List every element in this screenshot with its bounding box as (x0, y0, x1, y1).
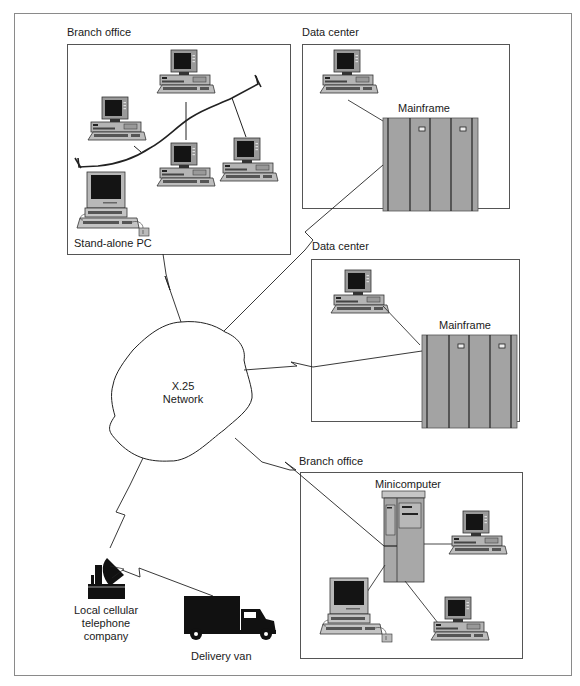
cellular-label-line1: Local cellular (65, 604, 147, 617)
branch-office-bottom-label: Branch office (299, 455, 363, 468)
x25-network-label-line1: X.25 (158, 380, 208, 393)
branch-office-top (68, 45, 291, 255)
mainframe-2-label: Mainframe (439, 319, 491, 332)
data-center-2-label: Data center (312, 240, 369, 253)
x25-network-label-line2: Network (150, 393, 216, 406)
data-center-1 (303, 45, 510, 212)
data-center-1-label: Data center (302, 26, 359, 39)
stand-alone-pc-label: Stand-alone PC (74, 237, 152, 250)
delivery-van-label: Delivery van (191, 650, 252, 663)
minicomputer-label: Minicomputer (375, 478, 441, 491)
branch-office-top-label: Branch office (67, 26, 131, 39)
mainframe-1-label: Mainframe (398, 102, 450, 115)
minicomputer-icon (382, 491, 425, 582)
branch-office-bottom (301, 473, 523, 659)
network-diagram: Branch office Stand-alone PC Data center… (0, 0, 580, 686)
mainframe-icon (422, 335, 517, 428)
cellular-tower-icon (88, 558, 125, 599)
diagram-canvas (0, 0, 580, 686)
mainframe-icon (383, 118, 478, 211)
data-center-2 (312, 260, 520, 429)
delivery-van-icon (184, 596, 276, 640)
cellular-label-line2: telephone (65, 617, 147, 630)
cellular-label-line3: company (65, 630, 147, 643)
